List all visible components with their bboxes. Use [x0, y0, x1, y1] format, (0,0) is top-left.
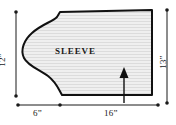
sleeve-piece-label: SLEEVE — [55, 46, 96, 56]
dimension-line-bottom-width — [16, 103, 160, 107]
dimension-label-right-height: 13” — [158, 55, 168, 69]
dimension-line-left-height — [14, 10, 18, 98]
dimension-label-bottom-left-width: 6” — [33, 108, 42, 118]
pattern-drawing — [0, 0, 176, 125]
dimension-label-left-height: 12” — [0, 53, 7, 67]
dimension-label-bottom-right-width: 16” — [104, 108, 118, 118]
sleeve-pattern-diagram: SLEEVE 12” 13” 6” 16” — [0, 0, 176, 125]
